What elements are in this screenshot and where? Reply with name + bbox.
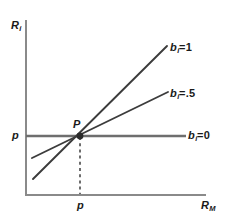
- series-label-beta-zero-operator: =: [197, 129, 204, 141]
- series-label-beta-one-subscript: i: [177, 46, 179, 55]
- series-label-beta-one-operator: =: [179, 41, 186, 53]
- series-label-beta-zero: bi=0: [188, 130, 210, 141]
- x-axis-tick-label-p: p: [77, 200, 84, 211]
- figure-container: Ri RM p p P bi=1 bi=.5 bi=0: [0, 0, 229, 220]
- series-label-beta-zero-subscript: i: [195, 134, 197, 143]
- y-axis-title: Ri: [11, 20, 21, 31]
- series-label-beta-zero-value: 0: [204, 129, 210, 141]
- y-axis-title-subscript: i: [19, 24, 21, 33]
- y-axis-title-symbol: R: [11, 19, 19, 31]
- series-label-beta-one-value: 1: [186, 41, 192, 53]
- series-label-beta-half-operator: =: [179, 87, 186, 99]
- series-label-beta-half-symbol: b: [170, 87, 177, 99]
- y-axis-tick-label-p: p: [12, 130, 19, 141]
- intersection-point-marker: [77, 133, 84, 140]
- series-label-beta-half: bi=.5: [170, 88, 195, 99]
- chart-canvas: [0, 0, 229, 220]
- series-line-beta-one: [33, 46, 167, 179]
- x-axis-title: RM: [201, 200, 215, 211]
- x-axis-title-symbol: R: [201, 199, 209, 211]
- series-label-beta-zero-symbol: b: [188, 129, 195, 141]
- x-axis-title-subscript: M: [209, 204, 215, 213]
- series-label-beta-half-value: .5: [186, 87, 195, 99]
- series-label-beta-one: bi=1: [170, 42, 192, 53]
- series-label-beta-one-symbol: b: [170, 41, 177, 53]
- series-label-beta-half-subscript: i: [177, 92, 179, 101]
- series-line-beta-half: [32, 92, 168, 158]
- intersection-point-label: P: [73, 119, 80, 130]
